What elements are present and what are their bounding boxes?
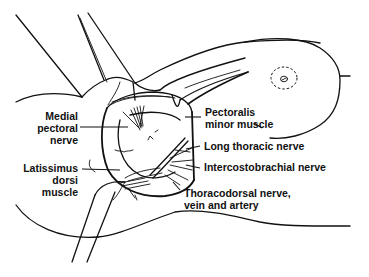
arm-outline bbox=[16, 13, 135, 97]
leader-latissimus bbox=[82, 169, 120, 170]
label-thoracodorsal-nerve-vein-artery: Thoracodorsal nerve, vein and artery bbox=[184, 187, 291, 211]
label-pectoralis-minor-muscle: Pectoralis minor muscle bbox=[205, 106, 273, 130]
surgical-field bbox=[102, 92, 194, 196]
label-long-thoracic-nerve: Long thoracic nerve bbox=[204, 140, 304, 152]
label-medial-pectoral-nerve: Medial pectoral nerve bbox=[22, 110, 78, 146]
label-latissimus-dorsi-muscle: Latissimus dorsi muscle bbox=[10, 162, 78, 198]
label-intercostobrachial-nerve: Intercostobrachial nerve bbox=[204, 161, 326, 173]
lower-retractor bbox=[72, 182, 137, 262]
pectoral-retractor bbox=[160, 58, 248, 106]
diagram-canvas: Medial pectoral nerve Latissimus dorsi m… bbox=[0, 0, 369, 277]
upper-retractor bbox=[108, 40, 320, 105]
